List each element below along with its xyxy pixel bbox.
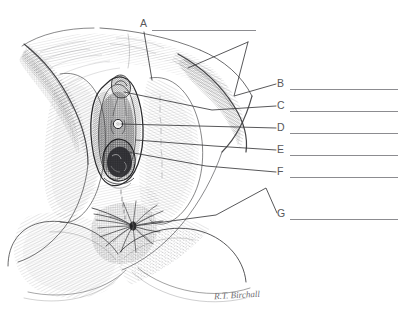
- label-letter-g: G: [277, 208, 285, 219]
- label-letter-b: B: [277, 78, 284, 89]
- label-letter-e: E: [277, 144, 284, 155]
- answer-rule-c[interactable]: [290, 111, 398, 112]
- label-letter-f: F: [277, 166, 284, 177]
- answer-rule-a[interactable]: [152, 30, 256, 31]
- leader-line-a: [144, 32, 152, 80]
- leader-line-b: [234, 42, 276, 96]
- leader-line-f: [128, 152, 276, 172]
- worksheet-page: A B C D E F G R.T. Birchall: [0, 0, 412, 327]
- leader-lines-layer: [0, 0, 412, 327]
- leader-line-c: [124, 92, 276, 110]
- answer-rule-d[interactable]: [290, 133, 398, 134]
- leader-line-d: [121, 124, 276, 128]
- leader-line-e: [136, 140, 276, 150]
- answer-rule-f[interactable]: [290, 177, 398, 178]
- label-letter-a: A: [140, 18, 147, 29]
- label-letter-d: D: [277, 122, 285, 133]
- label-letter-c: C: [277, 100, 285, 111]
- answer-rule-e[interactable]: [290, 155, 398, 156]
- leader-line-g: [134, 188, 277, 226]
- answer-rule-g[interactable]: [290, 219, 398, 220]
- leader-line-b-upper: [188, 42, 248, 68]
- answer-rule-b[interactable]: [290, 89, 398, 90]
